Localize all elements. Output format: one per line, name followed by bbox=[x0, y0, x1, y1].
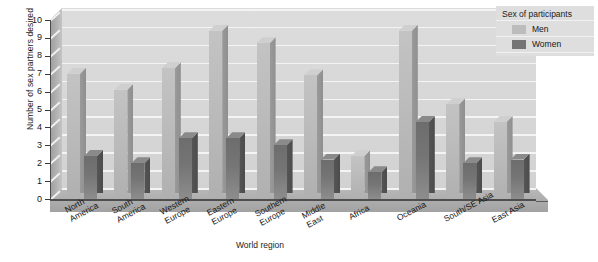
bar-men bbox=[446, 104, 459, 199]
gridline bbox=[62, 63, 536, 65]
gridline bbox=[62, 27, 536, 29]
bar-front-face bbox=[416, 122, 429, 199]
bar-front-face bbox=[463, 163, 476, 199]
bar-front-face bbox=[274, 145, 287, 199]
x-axis-title: World region bbox=[236, 240, 284, 250]
y-tick-mark bbox=[45, 145, 50, 146]
gridline bbox=[62, 45, 536, 47]
legend-separator bbox=[496, 36, 594, 37]
y-tick-mark bbox=[45, 110, 50, 111]
bar-front-face bbox=[162, 68, 175, 199]
legend-separator bbox=[496, 52, 594, 53]
legend-swatch bbox=[512, 40, 526, 49]
bar-women bbox=[511, 160, 524, 199]
bar-front-face bbox=[351, 156, 364, 199]
bar-men bbox=[67, 74, 80, 199]
bar-men bbox=[494, 122, 507, 199]
bar-women bbox=[179, 138, 192, 199]
y-tick-mark bbox=[45, 74, 50, 75]
bar-men bbox=[162, 68, 175, 199]
y-tick-mark bbox=[45, 92, 50, 93]
legend-entry-men: Men bbox=[500, 22, 590, 36]
legend-entry-women: Women bbox=[500, 37, 590, 51]
bar-women bbox=[368, 172, 381, 199]
bar-chart: 109876543210 Number of sex partners desi… bbox=[0, 0, 598, 262]
y-tick-mark bbox=[45, 163, 50, 164]
bar-front-face bbox=[321, 160, 334, 199]
bar-side-face bbox=[334, 154, 340, 193]
legend: Sex of participants MenWomen bbox=[496, 6, 594, 56]
bar-side-face bbox=[287, 139, 293, 193]
y-axis-title: Number of sex partners desired bbox=[25, 0, 35, 159]
gridline bbox=[62, 81, 536, 83]
y-axis-line bbox=[50, 20, 51, 200]
bar-men bbox=[304, 75, 317, 199]
bar-side-face bbox=[97, 150, 103, 193]
bar-side-face bbox=[524, 154, 530, 193]
legend-separator bbox=[496, 20, 594, 21]
bar-men bbox=[399, 31, 412, 199]
bar-front-face bbox=[494, 122, 507, 199]
bar-women bbox=[416, 122, 429, 199]
bar-front-face bbox=[67, 74, 80, 199]
bar-women bbox=[463, 163, 476, 199]
bar-women bbox=[321, 160, 334, 199]
bar-front-face bbox=[257, 43, 270, 199]
bar-men bbox=[257, 43, 270, 199]
bar-front-face bbox=[209, 31, 222, 199]
bar-side-face bbox=[476, 157, 482, 193]
y-tick-mark bbox=[45, 181, 50, 182]
bar-side-face bbox=[239, 132, 245, 193]
y-tick-mark bbox=[45, 199, 50, 200]
y-tick-label: 1 bbox=[24, 177, 42, 186]
plot-floor-right-edge bbox=[536, 188, 548, 202]
legend-title: Sex of participants bbox=[500, 9, 590, 19]
bar-side-face bbox=[144, 157, 150, 193]
bar-men bbox=[209, 31, 222, 199]
bar-men bbox=[114, 90, 127, 199]
y-tick-mark bbox=[45, 38, 50, 39]
bar-front-face bbox=[114, 90, 127, 199]
bar-front-face bbox=[226, 138, 239, 199]
y-tick-label: 0 bbox=[24, 195, 42, 204]
y-tick-label: 2 bbox=[24, 159, 42, 168]
bar-front-face bbox=[399, 31, 412, 199]
legend-label: Men bbox=[532, 24, 549, 34]
legend-swatch bbox=[512, 25, 526, 34]
bar-front-face bbox=[511, 160, 524, 199]
bar-side-face bbox=[429, 116, 435, 193]
bar-front-face bbox=[304, 75, 317, 199]
bar-side-face bbox=[192, 132, 198, 193]
y-tick-mark bbox=[45, 56, 50, 57]
bar-front-face bbox=[446, 104, 459, 199]
y-tick-mark bbox=[45, 20, 50, 21]
gridline bbox=[62, 9, 536, 11]
bar-women bbox=[274, 145, 287, 199]
bar-front-face bbox=[368, 172, 381, 199]
y-tick-mark bbox=[45, 127, 50, 128]
bar-men bbox=[351, 156, 364, 199]
legend-label: Women bbox=[532, 39, 561, 49]
bar-front-face bbox=[179, 138, 192, 199]
bar-women bbox=[226, 138, 239, 199]
